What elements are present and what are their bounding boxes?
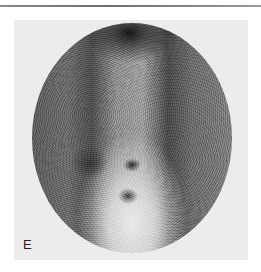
panel-label: E	[23, 237, 32, 252]
scan-noise-texture	[32, 23, 232, 253]
scintigraphy-image	[32, 23, 232, 253]
top-rule-divider	[0, 5, 261, 7]
scan-panel: E	[14, 20, 248, 260]
